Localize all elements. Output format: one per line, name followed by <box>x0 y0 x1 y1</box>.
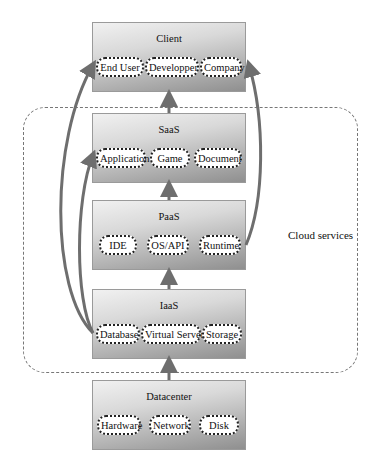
node-network: Network <box>149 415 191 435</box>
cloud-services-label: Cloud services <box>288 229 353 241</box>
node-database: Database <box>96 324 140 344</box>
node-document: Document <box>194 148 242 168</box>
node-virtual-server: Virtual Server <box>141 324 201 344</box>
layer-iaas: IaaS Database Virtual Server Storage <box>92 289 246 359</box>
node-ide: IDE <box>99 235 137 255</box>
layer-datacenter: Datacenter Hardware Network Disk <box>92 380 246 450</box>
node-company: Company <box>200 57 242 77</box>
layer-title: PaaS <box>93 211 245 222</box>
layer-title: IaaS <box>93 300 245 311</box>
layer-client: Client End User Developper Company <box>92 22 246 92</box>
layer-title: Datacenter <box>93 391 245 402</box>
node-end-user: End User <box>96 57 144 77</box>
node-os-api: OS/API <box>147 235 189 255</box>
layer-paas: PaaS IDE OS/API Runtime <box>92 200 246 270</box>
node-disk: Disk <box>199 415 239 435</box>
node-runtime: Runtime <box>199 235 241 255</box>
node-application: Application <box>96 148 146 168</box>
node-game: Game <box>150 148 190 168</box>
node-storage: Storage <box>202 324 242 344</box>
layer-title: Client <box>93 33 245 44</box>
node-hardware: Hardware <box>97 415 141 435</box>
layer-saas: SaaS Application Game Document <box>92 113 246 183</box>
layer-title: SaaS <box>93 124 245 135</box>
node-developper: Developper <box>145 57 199 77</box>
